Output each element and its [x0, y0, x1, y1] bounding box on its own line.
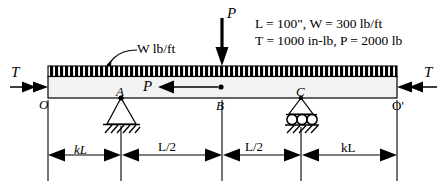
ground-hatch-A [105, 125, 140, 133]
given-values-line1: L = 100", W = 300 lb/ft [255, 17, 382, 31]
point-label-O-prime: O' [392, 99, 404, 113]
dimension-label-L2-right: L/2 [245, 140, 263, 154]
roller-support-C [285, 96, 319, 133]
given-values-line2: T = 1000 in-lb, P = 2000 lb [255, 34, 402, 48]
point-label-C: C [296, 85, 305, 99]
distributed-load-label: W lb/ft [137, 42, 175, 56]
dimension-label-L2-left: L/2 [158, 140, 176, 154]
dimension-label-kL-right: kL [341, 141, 355, 155]
beam-diagram: P L = 100", W = 300 lb/ft T = 1000 in-lb… [0, 0, 447, 187]
axial-force-label-left-T: T [11, 65, 19, 81]
point-load-label-P: P [227, 6, 236, 22]
axial-force-right-arrow [397, 82, 437, 93]
distributed-load-strip [48, 66, 397, 77]
internal-axial-label-P: P [143, 79, 152, 95]
axial-force-left-arrow [10, 82, 48, 93]
point-label-B: B [216, 99, 224, 113]
axial-force-label-right-T: T [424, 65, 432, 81]
point-label-O: O [39, 98, 48, 112]
distributed-load-leader [106, 50, 138, 67]
point-label-A: A [116, 85, 124, 99]
point-load-arrow-P [216, 18, 229, 66]
ground-hatch-C [287, 126, 318, 134]
dimension-label-kL-left: kL [74, 143, 87, 157]
